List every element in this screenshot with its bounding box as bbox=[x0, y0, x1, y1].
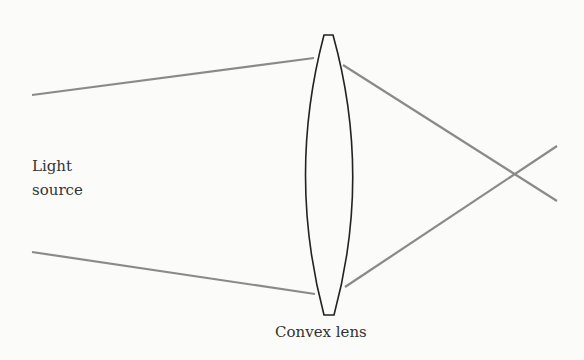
upper-incoming-ray bbox=[32, 58, 314, 95]
upper-refracted-ray bbox=[343, 65, 557, 201]
lower-refracted-ray bbox=[345, 146, 557, 287]
light-source-label-line2: source bbox=[32, 178, 83, 202]
convex-lens-label: Convex lens bbox=[275, 320, 367, 344]
convex-lens-shape bbox=[306, 35, 353, 315]
light-source-label-line1: Light bbox=[32, 154, 83, 178]
lens-diagram: Light source Convex lens bbox=[0, 0, 584, 360]
diagram-svg bbox=[0, 0, 584, 360]
light-source-label: Light source bbox=[32, 154, 83, 202]
lower-incoming-ray bbox=[32, 252, 315, 294]
